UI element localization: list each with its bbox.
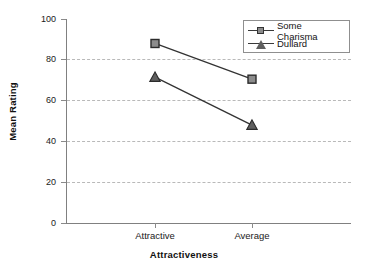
legend-label-dullard: Dullard [274,38,307,49]
data-point-0-0[interactable] [151,39,159,47]
legend-item-some-charisma[interactable]: Some Charisma [248,24,345,37]
series-line-0 [155,43,252,79]
data-point-1-0[interactable] [150,72,160,81]
line-chart: 100 80 60 40 20 0 Attractive Average Att… [0,0,368,271]
data-point-0-1[interactable] [248,75,256,83]
square-marker-icon [248,25,274,37]
legend: Some Charisma Dullard [243,20,350,53]
series-line-1 [155,77,252,125]
triangle-marker-icon [248,38,274,50]
data-point-1-1[interactable] [247,120,257,129]
